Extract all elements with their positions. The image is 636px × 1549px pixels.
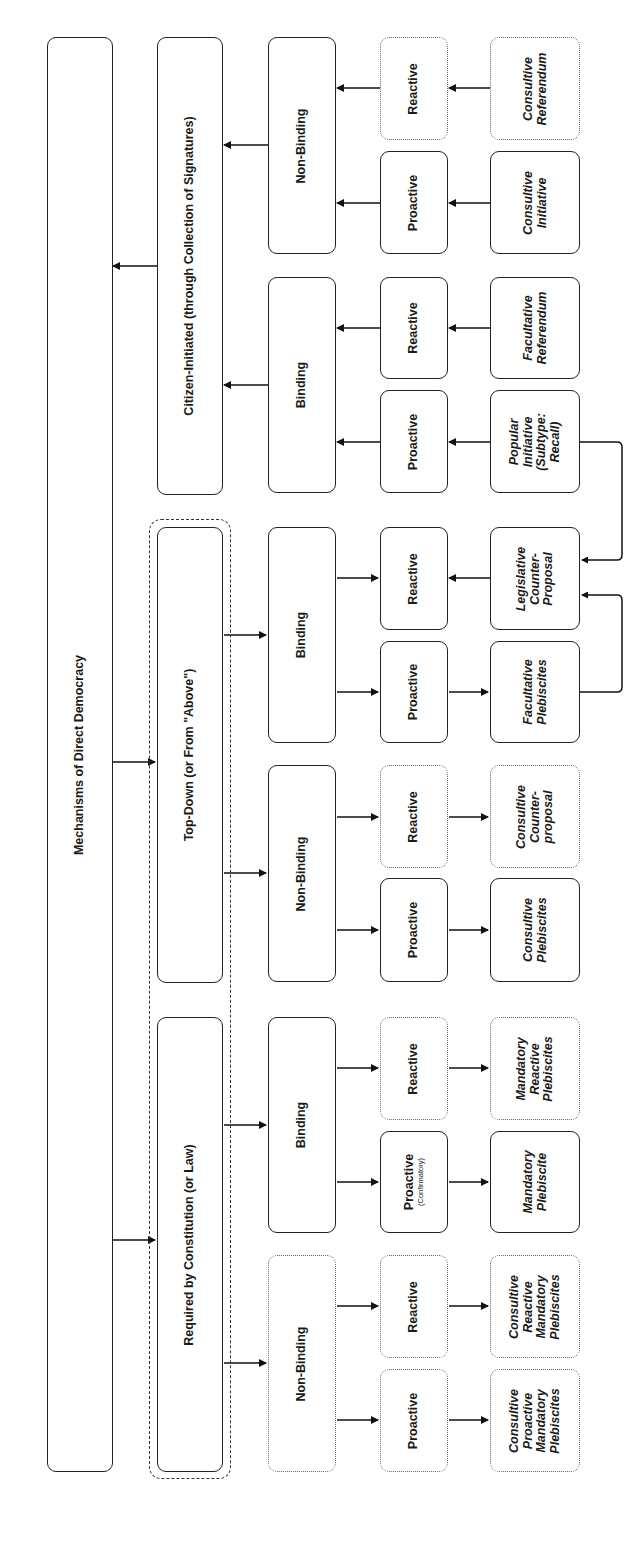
- legislative-counter-proposal-node: Legislative Counter- Proposal: [490, 527, 580, 630]
- leaf-line: Plebiscite: [535, 1150, 549, 1213]
- legislative-counter-proposal-label: Legislative Counter- Proposal: [515, 546, 556, 611]
- leaf-line: Mandatory: [535, 1388, 549, 1453]
- leaf-line: Facultative: [522, 659, 536, 724]
- popular-initiative-node: Popular Initiative (Subtype: Recall): [490, 390, 580, 493]
- consultive-initiative-node: Consultive Initiative: [490, 151, 580, 254]
- leaf-line: Facultative: [522, 292, 536, 365]
- required-nb-reactive-node: Reactive: [380, 1255, 448, 1358]
- top-down-non-binding-label: Non-Binding: [295, 836, 309, 911]
- leaf-line: Plebiscites: [542, 1036, 556, 1101]
- citizen-nb-reactive-label: Reactive: [407, 63, 421, 114]
- consultive-referendum-label: Consultive Referendum: [522, 52, 549, 125]
- leaf-line: Plebiscites: [535, 659, 549, 724]
- top-down-b-proactive-label: Proactive: [407, 664, 421, 720]
- consultive-reactive-mandatory-plebiscites-label: Consultive Reactive Mandatory Plebiscite…: [508, 1274, 562, 1339]
- top-down-non-binding-node: Non-Binding: [268, 765, 336, 982]
- top-down-nb-reactive-label: Reactive: [407, 791, 421, 842]
- required-non-binding-node: Non-Binding: [268, 1255, 336, 1472]
- leaf-line: Reactive: [522, 1274, 536, 1339]
- confirmatory-text: (Confirmatory): [417, 1154, 425, 1210]
- leaf-line: Consultive: [508, 1388, 522, 1453]
- citizen-non-binding-node: Non-Binding: [268, 37, 336, 254]
- required-by-constitution-label: Required by Constitution (or Law): [183, 1144, 197, 1345]
- leaf-line: Reactive: [528, 1036, 542, 1101]
- consultive-reactive-mandatory-plebiscites-node: Consultive Reactive Mandatory Plebiscite…: [490, 1255, 580, 1358]
- facultative-referendum-label: Facultative Referendum: [522, 292, 549, 365]
- citizen-nb-proactive-node: Proactive: [380, 151, 448, 254]
- citizen-initiated-label: Citizen-Initiated (through Collection of…: [183, 116, 197, 415]
- facultative-referendum-node: Facultative Referendum: [490, 277, 580, 379]
- citizen-b-proactive-node: Proactive: [380, 390, 448, 493]
- citizen-non-binding-label: Non-Binding: [295, 108, 309, 183]
- citizen-b-reactive-node: Reactive: [380, 277, 448, 379]
- required-nb-proactive-node: Proactive: [380, 1369, 448, 1472]
- required-b-proactive-label: Proactive (Confirmatory): [403, 1154, 425, 1210]
- top-down-label: Top-Down (or From "Above"): [183, 669, 197, 842]
- consultive-referendum-node: Consultive Referendum: [490, 37, 580, 140]
- leaf-line: Mandatory: [535, 1274, 549, 1339]
- citizen-binding-node: Binding: [268, 277, 336, 493]
- leaf-line: Recall): [549, 413, 563, 471]
- facultative-plebiscites-label: Facultative Plebiscites: [522, 659, 549, 724]
- leaf-line: Proposal: [542, 546, 556, 611]
- consultive-plebiscites-node: Consultive Plebiscites: [490, 878, 580, 982]
- leaf-line: Mandatory: [522, 1150, 536, 1213]
- consultive-proactive-mandatory-plebiscites-node: Consultive Proactive Mandatory Plebiscit…: [490, 1369, 580, 1472]
- required-b-proactive-node: Proactive (Confirmatory): [380, 1131, 448, 1233]
- top-down-nb-reactive-node: Reactive: [380, 765, 448, 868]
- top-down-binding-label: Binding: [295, 612, 309, 659]
- leaf-line: Consultive: [522, 171, 536, 235]
- citizen-nb-reactive-node: Reactive: [380, 37, 448, 140]
- leaf-line: Consultive: [508, 1274, 522, 1339]
- consultive-counter-proposal-label: Consultive Counter- proposal: [515, 785, 556, 849]
- proactive-text: Proactive: [403, 1154, 417, 1210]
- leaf-line: Referendum: [535, 292, 549, 365]
- required-by-constitution-node: Required by Constitution (or Law): [157, 1017, 223, 1472]
- top-down-nb-proactive-node: Proactive: [380, 878, 448, 982]
- direct-democracy-diagram: Mechanisms of Direct Democracy Citizen-I…: [0, 0, 636, 1549]
- mandatory-plebiscite-node: Mandatory Plebiscite: [490, 1131, 580, 1233]
- top-down-node: Top-Down (or From "Above"): [157, 527, 223, 983]
- citizen-binding-label: Binding: [295, 362, 309, 409]
- required-b-reactive-label: Reactive: [407, 1043, 421, 1094]
- leaf-line: Counter-: [528, 785, 542, 849]
- leaf-line: Referendum: [535, 52, 549, 125]
- mandatory-reactive-plebiscites-label: Mandatory Reactive Plebiscites: [515, 1036, 556, 1101]
- top-down-b-reactive-label: Reactive: [407, 553, 421, 604]
- leaf-line: Initiative: [522, 413, 536, 471]
- leaf-line: Consultive: [515, 785, 529, 849]
- leaf-line: Proactive: [522, 1388, 536, 1453]
- required-binding-label: Binding: [295, 1102, 309, 1149]
- top-down-binding-node: Binding: [268, 527, 336, 743]
- consultive-proactive-mandatory-plebiscites-label: Consultive Proactive Mandatory Plebiscit…: [508, 1388, 562, 1453]
- leaf-line: Legislative: [515, 546, 529, 611]
- mandatory-plebiscite-label: Mandatory Plebiscite: [522, 1150, 549, 1213]
- top-down-b-proactive-node: Proactive: [380, 641, 448, 743]
- leaf-line: Plebiscites: [549, 1388, 563, 1453]
- citizen-nb-proactive-label: Proactive: [407, 174, 421, 230]
- leaf-line: Consultive: [522, 52, 536, 125]
- top-down-b-reactive-node: Reactive: [380, 527, 448, 630]
- required-binding-node: Binding: [268, 1017, 336, 1233]
- leaf-line: Plebiscites: [549, 1274, 563, 1339]
- required-b-reactive-node: Reactive: [380, 1017, 448, 1120]
- popular-initiative-label: Popular Initiative (Subtype: Recall): [508, 413, 562, 471]
- consultive-initiative-label: Consultive Initiative: [522, 171, 549, 235]
- leaf-line: Popular: [508, 413, 522, 471]
- leaf-line: Plebiscites: [535, 897, 549, 962]
- consultive-plebiscites-label: Consultive Plebiscites: [522, 897, 549, 962]
- citizen-initiated-node: Citizen-Initiated (through Collection of…: [157, 37, 223, 495]
- required-nb-reactive-label: Reactive: [407, 1281, 421, 1332]
- citizen-b-proactive-label: Proactive: [407, 413, 421, 469]
- top-down-nb-proactive-label: Proactive: [407, 902, 421, 958]
- leaf-line: proposal: [542, 785, 556, 849]
- leaf-line: Counter-: [528, 546, 542, 611]
- consultive-counter-proposal-node: Consultive Counter- proposal: [490, 765, 580, 868]
- root-label: Mechanisms of Direct Democracy: [73, 654, 87, 854]
- required-non-binding-label: Non-Binding: [295, 1326, 309, 1401]
- leaf-line: (Subtype:: [535, 413, 549, 471]
- facultative-plebiscites-node: Facultative Plebiscites: [490, 641, 580, 743]
- citizen-b-reactive-label: Reactive: [407, 302, 421, 353]
- mandatory-reactive-plebiscites-node: Mandatory Reactive Plebiscites: [490, 1017, 580, 1120]
- leaf-line: Initiative: [535, 171, 549, 235]
